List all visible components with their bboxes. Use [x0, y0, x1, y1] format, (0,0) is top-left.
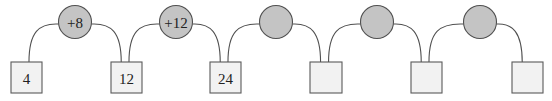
- number-box: 24: [210, 62, 241, 93]
- number-box[interactable]: [310, 62, 342, 93]
- operation-circle: +8: [59, 6, 92, 39]
- arc-right-2: [293, 24, 321, 62]
- arc-left-0: [29, 24, 59, 62]
- arc-left-1: [129, 24, 160, 62]
- box-value: 12: [119, 71, 134, 87]
- box-shape: [411, 62, 442, 93]
- operation-circle[interactable]: [260, 6, 293, 39]
- arc-right-1: [193, 24, 221, 62]
- arc-right-4: [497, 24, 523, 62]
- arc-right-3: [394, 24, 422, 62]
- arc-right-0: [92, 24, 122, 62]
- circle-shape: [464, 6, 497, 39]
- number-pattern-diagram: +8+12 41224: [0, 0, 552, 101]
- operation-label: +12: [164, 15, 187, 31]
- operation-circle: +12: [160, 6, 193, 39]
- operation-circle[interactable]: [361, 6, 394, 39]
- circle-shape: [260, 6, 293, 39]
- number-box[interactable]: [512, 62, 543, 93]
- number-box: 12: [111, 62, 142, 93]
- operation-label: +8: [67, 15, 83, 31]
- operation-circles: +8+12: [59, 6, 497, 39]
- box-value: 4: [23, 71, 31, 87]
- box-shape: [512, 62, 543, 93]
- number-boxes: 41224: [11, 62, 543, 93]
- box-value: 24: [218, 71, 234, 87]
- arc-left-2: [228, 24, 260, 62]
- box-shape: [310, 62, 342, 93]
- circle-shape: [361, 6, 394, 39]
- arc-left-4: [429, 24, 464, 62]
- operation-circle[interactable]: [464, 6, 497, 39]
- number-box: 4: [11, 62, 42, 93]
- number-box[interactable]: [411, 62, 442, 93]
- arc-left-3: [329, 24, 361, 62]
